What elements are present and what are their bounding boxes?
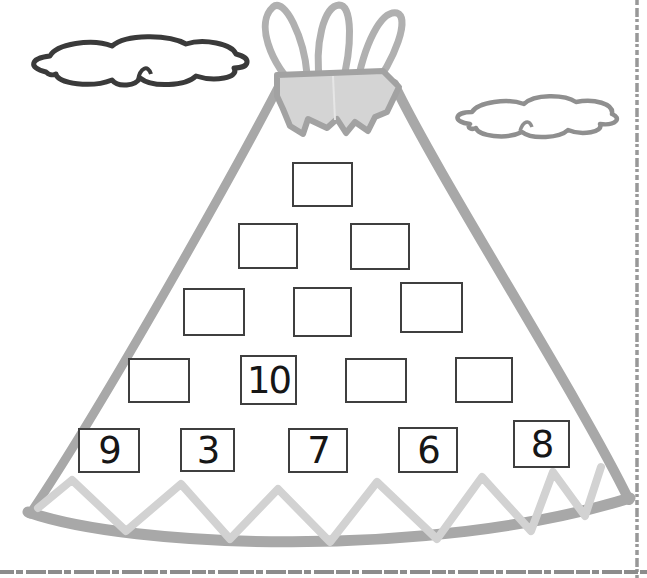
pyramid-cell-r3c1[interactable] (183, 288, 245, 336)
pyramid-cell-r2c2[interactable] (350, 223, 410, 270)
pyramid-cell-r5c1: 9 (78, 428, 140, 473)
pyramid-cell-r4c3[interactable] (345, 358, 407, 403)
pyramid-cell-r3c2[interactable] (293, 287, 352, 337)
cloud-left-icon (34, 37, 247, 85)
zigzag-trim-icon (38, 467, 601, 542)
pyramid-cell-r5c3: 7 (288, 428, 348, 473)
pyramid-cell-r2c1[interactable] (238, 223, 298, 269)
worksheet-page: 10 9 3 7 6 8 (0, 0, 647, 578)
pyramid-cell-r3c3[interactable] (400, 282, 463, 333)
pyramid-cell-r5c2: 3 (180, 428, 235, 472)
pyramid-cell-r5c5: 8 (513, 420, 570, 468)
teepee-top-flap-icon (277, 71, 399, 134)
pyramid-cell-r1c1[interactable] (292, 162, 353, 207)
pyramid-cell-r4c1[interactable] (128, 358, 190, 403)
pyramid-cell-r5c4: 6 (398, 427, 458, 473)
pyramid-cell-r4c2: 10 (240, 355, 297, 405)
cloud-right-icon (457, 96, 616, 137)
pyramid-cell-r4c4[interactable] (455, 357, 513, 403)
